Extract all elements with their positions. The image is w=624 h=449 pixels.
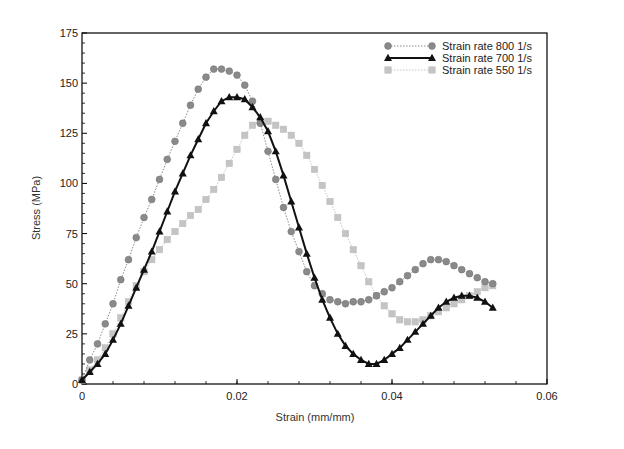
circle-marker-icon	[148, 196, 155, 203]
y-tick-label: 125	[60, 127, 78, 139]
circle-marker-icon	[443, 258, 450, 265]
circle-marker-icon	[451, 262, 458, 269]
circle-marker-icon	[381, 288, 388, 295]
square-marker-icon	[350, 246, 356, 252]
square-marker-icon	[218, 174, 224, 180]
circle-marker-icon	[210, 66, 217, 73]
square-marker-icon	[156, 246, 162, 252]
circle-marker-icon	[94, 340, 101, 347]
square-marker-icon	[187, 212, 193, 218]
x-tick-label: 0.06	[536, 390, 557, 402]
circle-marker-icon	[385, 43, 392, 50]
y-tick-label: 25	[66, 328, 78, 340]
square-marker-icon	[311, 166, 317, 172]
circle-marker-icon	[241, 82, 248, 89]
circle-marker-icon	[296, 248, 303, 255]
circle-marker-icon	[474, 274, 481, 281]
square-marker-icon	[273, 122, 279, 128]
circle-marker-icon	[435, 256, 442, 263]
circle-marker-icon	[365, 296, 372, 303]
circle-marker-icon	[420, 260, 427, 267]
square-marker-icon	[443, 305, 449, 311]
y-tick-label: 75	[66, 228, 78, 240]
y-tick-label: 175	[60, 27, 78, 39]
circle-marker-icon	[489, 280, 496, 287]
square-marker-icon	[195, 206, 201, 212]
square-marker-icon	[242, 132, 248, 138]
square-marker-icon	[404, 319, 410, 325]
y-axis-label: Stress (MPa)	[30, 176, 42, 240]
circle-marker-icon	[466, 270, 473, 277]
circle-marker-icon	[218, 66, 225, 73]
stress-strain-chart: 0255075100125150175 00.020.040.06 Strain…	[0, 0, 624, 449]
circle-marker-icon	[141, 214, 148, 221]
square-marker-icon	[429, 67, 435, 73]
circle-marker-icon	[396, 278, 403, 285]
circle-marker-icon	[458, 266, 465, 273]
circle-marker-icon	[179, 120, 186, 127]
circle-marker-icon	[412, 266, 419, 273]
circle-marker-icon	[272, 176, 279, 183]
circle-marker-icon	[482, 278, 489, 285]
circle-marker-icon	[280, 204, 287, 211]
circle-marker-icon	[288, 228, 295, 235]
circle-marker-icon	[404, 272, 411, 279]
circle-marker-icon	[389, 284, 396, 291]
plot-area	[82, 33, 547, 384]
circle-marker-icon	[226, 68, 233, 75]
square-marker-icon	[265, 118, 271, 124]
square-marker-icon	[234, 146, 240, 152]
circle-marker-icon	[358, 298, 365, 305]
x-axis-label: Strain (mm/mm)	[276, 411, 355, 423]
x-tick-label: 0.04	[381, 390, 402, 402]
square-marker-icon	[381, 303, 387, 309]
circle-marker-icon	[172, 138, 179, 145]
square-marker-icon	[319, 182, 325, 188]
square-marker-icon	[389, 311, 395, 317]
circle-marker-icon	[125, 256, 132, 263]
square-marker-icon	[397, 317, 403, 323]
circle-marker-icon	[350, 298, 357, 305]
y-tick-label: 150	[60, 77, 78, 89]
plot-border	[82, 33, 547, 384]
circle-marker-icon	[110, 300, 117, 307]
square-marker-icon	[327, 198, 333, 204]
square-marker-icon	[385, 67, 391, 73]
x-tick-label: 0	[79, 390, 85, 402]
y-tick-label: 100	[60, 177, 78, 189]
legend-label: Strain rate 700 1/s	[442, 52, 532, 64]
circle-marker-icon	[342, 300, 349, 307]
square-marker-icon	[366, 279, 372, 285]
square-marker-icon	[280, 126, 286, 132]
circle-marker-icon	[373, 292, 380, 299]
square-marker-icon	[203, 196, 209, 202]
square-marker-icon	[342, 230, 348, 236]
y-tick-label: 0	[72, 378, 78, 390]
circle-marker-icon	[334, 298, 341, 305]
circle-marker-icon	[164, 156, 171, 163]
square-marker-icon	[288, 132, 294, 138]
legend-label: Strain rate 550 1/s	[442, 64, 532, 76]
square-marker-icon	[482, 285, 488, 291]
circle-marker-icon	[102, 320, 109, 327]
circle-marker-icon	[427, 256, 434, 263]
square-marker-icon	[172, 228, 178, 234]
square-marker-icon	[211, 186, 217, 192]
circle-marker-icon	[133, 234, 140, 241]
circle-marker-icon	[327, 296, 334, 303]
square-marker-icon	[358, 262, 364, 268]
square-marker-icon	[249, 122, 255, 128]
circle-marker-icon	[303, 268, 310, 275]
circle-marker-icon	[86, 357, 93, 364]
legend-label: Strain rate 800 1/s	[442, 40, 532, 52]
square-marker-icon	[296, 140, 302, 146]
circle-marker-icon	[429, 43, 436, 50]
x-tick-label: 0.02	[226, 390, 247, 402]
y-tick-label: 50	[66, 278, 78, 290]
circle-marker-icon	[187, 102, 194, 109]
circle-marker-icon	[117, 276, 124, 283]
circle-marker-icon	[203, 74, 210, 81]
circle-marker-icon	[265, 148, 272, 155]
square-marker-icon	[451, 301, 457, 307]
square-marker-icon	[335, 214, 341, 220]
